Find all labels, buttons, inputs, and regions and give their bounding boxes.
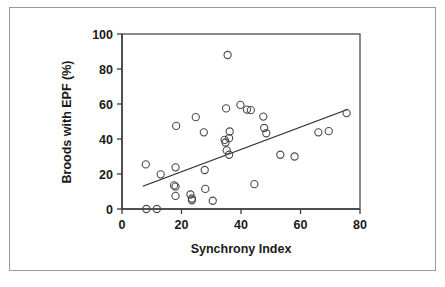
trend-line bbox=[143, 109, 348, 186]
data-point-group bbox=[142, 51, 350, 212]
y-tick-label: 100 bbox=[92, 28, 113, 42]
y-axis-ticks: 020406080100 bbox=[92, 28, 122, 217]
data-point bbox=[200, 129, 207, 136]
data-point bbox=[277, 151, 284, 158]
data-point bbox=[315, 129, 322, 136]
y-axis-title: Broods with EPF (%) bbox=[60, 61, 74, 184]
x-tick-label: 20 bbox=[175, 218, 189, 232]
scatter-chart: 020406080100 020406080 Synchrony Index B… bbox=[0, 0, 445, 287]
figure-root: 020406080100 020406080 Synchrony Index B… bbox=[0, 0, 445, 287]
data-point bbox=[192, 114, 199, 121]
data-point bbox=[142, 161, 149, 168]
x-tick-label: 60 bbox=[294, 218, 308, 232]
data-point bbox=[172, 192, 179, 199]
data-point bbox=[226, 128, 233, 135]
y-tick-label: 20 bbox=[99, 168, 113, 182]
data-point bbox=[223, 147, 230, 154]
data-point bbox=[172, 164, 179, 171]
y-tick-label: 0 bbox=[106, 203, 113, 217]
data-point bbox=[224, 51, 231, 58]
plot-area bbox=[122, 34, 360, 209]
y-tick-label: 80 bbox=[99, 63, 113, 77]
data-point bbox=[201, 166, 208, 173]
x-tick-label: 0 bbox=[119, 218, 126, 232]
data-point bbox=[325, 128, 332, 135]
data-point bbox=[173, 122, 180, 129]
data-point bbox=[291, 153, 298, 160]
x-tick-label: 40 bbox=[234, 218, 248, 232]
x-tick-label: 80 bbox=[353, 218, 367, 232]
data-point bbox=[223, 105, 230, 112]
data-point bbox=[343, 110, 350, 117]
x-axis-title: Synchrony Index bbox=[191, 242, 292, 256]
data-point bbox=[157, 171, 164, 178]
data-point bbox=[260, 113, 267, 120]
y-tick-label: 40 bbox=[99, 133, 113, 147]
plot-area-border bbox=[122, 34, 360, 209]
y-tick-label: 60 bbox=[99, 98, 113, 112]
data-point bbox=[202, 185, 209, 192]
data-point bbox=[209, 197, 216, 204]
data-point bbox=[237, 101, 244, 108]
data-point bbox=[251, 181, 258, 188]
